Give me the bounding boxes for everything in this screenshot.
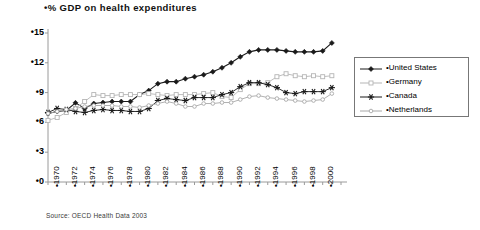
legend-item-0: •United States xyxy=(358,60,468,74)
x-tick-label: •2000 xyxy=(326,166,335,187)
y-tick-label: •9 xyxy=(18,87,44,97)
legend-item-2: •Canada xyxy=(358,88,468,102)
y-tick-label: •15 xyxy=(18,27,44,37)
x-tick-label: •1988 xyxy=(216,166,225,187)
x-tick-label: •1982 xyxy=(161,166,170,187)
legend-item-3: •Netherlands xyxy=(358,102,468,116)
chart-figure: •% GDP on health expenditures •0•3•6•9•1… xyxy=(0,0,480,230)
x-tick-label: •1970 xyxy=(52,166,61,187)
x-tick-label: •1974 xyxy=(88,166,97,187)
x-tick-label: •1998 xyxy=(308,166,317,187)
series-line-2 xyxy=(45,80,335,115)
legend-label: •Canada xyxy=(384,91,417,100)
x-tick-label: •1986 xyxy=(198,166,207,187)
x-tick-label: •1980 xyxy=(143,166,152,187)
x-tick-label: •1994 xyxy=(271,166,280,187)
x-tick-label: •1972 xyxy=(70,166,79,187)
data-series-group xyxy=(45,40,335,122)
x-tick-label: •1992 xyxy=(253,166,262,187)
chart-legend: •United States•Germany•Canada•Netherland… xyxy=(354,57,469,117)
legend-marker-icon xyxy=(358,75,384,87)
y-tick-label: •6 xyxy=(18,116,44,126)
legend-marker-icon xyxy=(358,103,384,115)
y-tick-label: •0 xyxy=(18,176,44,186)
x-tick-label: •1990 xyxy=(235,166,244,187)
legend-marker-icon xyxy=(358,89,384,101)
x-tick-label: •1996 xyxy=(290,166,299,187)
source-note: Source: OECD Health Data 2003 xyxy=(46,212,147,219)
series-line-1 xyxy=(46,72,334,123)
series-line-0 xyxy=(46,40,335,116)
legend-label: •Netherlands xyxy=(384,105,432,114)
x-tick-label: •1976 xyxy=(106,166,115,187)
legend-item-1: •Germany xyxy=(358,74,468,88)
x-tick-label: •1984 xyxy=(180,166,189,187)
y-tick-label: •12 xyxy=(18,57,44,67)
legend-label: •United States xyxy=(384,63,437,72)
y-tick-label: •3 xyxy=(18,146,44,156)
legend-label: •Germany xyxy=(384,77,422,86)
legend-marker-icon xyxy=(358,61,384,73)
x-tick-label: •1978 xyxy=(125,166,134,187)
